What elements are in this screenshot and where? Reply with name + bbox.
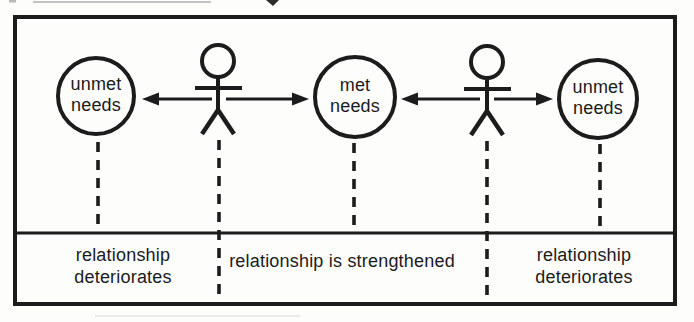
dashed-connectors <box>98 140 600 298</box>
double-arrow-right <box>401 93 553 106</box>
person-icon-right <box>464 46 511 135</box>
person-leg-left <box>471 111 487 135</box>
outcome-label-center: relationship is strengthened <box>229 250 455 272</box>
unmet-needs-label-left: unmet needs <box>70 74 121 116</box>
person-head <box>202 45 234 77</box>
arrowhead-east-icon <box>536 93 553 106</box>
person-leg-left <box>202 110 218 134</box>
figure-canvas: unmet needs met needs unmet needs relati… <box>0 0 694 322</box>
unmet-needs-label-right: unmet needs <box>572 77 623 119</box>
scan-artifact-shadow <box>95 315 300 317</box>
person-icon-left <box>195 45 242 134</box>
met-needs-label: met needs <box>330 75 380 117</box>
double-arrow-left <box>142 93 309 106</box>
cropped-text-remnant <box>266 0 279 6</box>
person-leg-right <box>487 111 503 135</box>
person-leg-right <box>218 110 234 134</box>
scan-artifact-line <box>33 1 211 3</box>
outcome-label-left: relationship deteriorates <box>74 244 171 288</box>
outcome-label-right: relationship deteriorates <box>535 244 632 288</box>
person-head <box>471 46 503 78</box>
scan-artifact-mark <box>9 0 16 3</box>
arrowhead-east-icon <box>292 93 309 106</box>
